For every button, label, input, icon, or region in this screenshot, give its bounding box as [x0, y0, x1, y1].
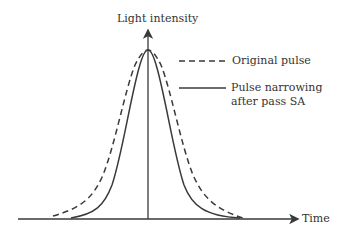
- legend-narrowed-label-line1: Pulse narrowing: [231, 82, 323, 94]
- narrowed-pulse-curve: [71, 50, 240, 218]
- legend-original-label: Original pulse: [232, 55, 311, 67]
- y-axis-label: Light intensity: [117, 13, 198, 25]
- legend-narrowed-label-line2: after pass SA: [231, 96, 305, 108]
- x-axis-label: Time: [302, 213, 330, 225]
- pulse-narrowing-diagram: Light intensity Time Original pulse Puls…: [0, 0, 344, 236]
- diagram-graphics: [0, 0, 344, 236]
